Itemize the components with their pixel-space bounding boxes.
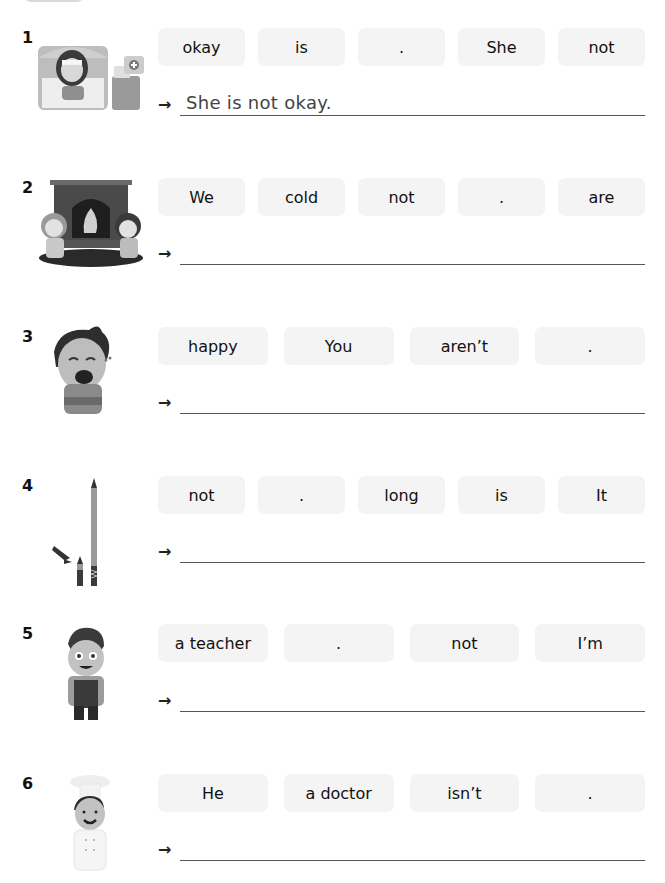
exercise-number: 6 [22,774,33,793]
exercise-number: 2 [22,178,33,197]
answer-row: → [158,533,645,563]
arrow-right-icon: → [158,840,171,859]
section-tab [25,0,83,2]
answer-line [180,711,645,712]
answer-row: → [158,235,645,265]
answer-row: → [158,384,645,414]
answer-line [180,264,645,265]
exercise-number: 3 [22,327,33,346]
word-token[interactable]: . [535,327,645,365]
word-tokens: okay is . She not [158,28,645,66]
word-token[interactable]: are [558,178,645,216]
crying-boy-illustration [44,322,134,426]
answer-row: → She is not okay. [158,86,645,116]
answer-line [180,115,645,116]
word-tokens: He a doctor isn’t . [158,774,645,812]
word-token[interactable]: happy [158,327,268,365]
word-token[interactable]: I’m [535,624,645,662]
word-token[interactable]: okay [158,28,245,66]
short-and-long-pencils-illustration [44,476,114,592]
arrow-right-icon: → [158,542,171,561]
word-token[interactable]: not [358,178,445,216]
exercise-number: 5 [22,624,33,643]
word-token[interactable]: isn’t [410,774,520,812]
word-token[interactable]: aren’t [410,327,520,365]
word-token[interactable]: . [258,476,345,514]
answer-line [180,413,645,414]
arrow-right-icon: → [158,244,171,263]
answer-line [180,562,645,563]
word-tokens: happy You aren’t . [158,327,645,365]
word-token[interactable]: not [558,28,645,66]
word-token[interactable]: You [284,327,394,365]
sick-girl-in-bed-illustration [34,38,149,117]
exercise-number: 1 [22,28,33,47]
arrow-right-icon: → [158,95,171,114]
word-token[interactable]: a doctor [284,774,394,812]
word-token[interactable]: . [458,178,545,216]
word-token[interactable]: is [258,28,345,66]
word-token[interactable]: not [158,476,245,514]
word-token[interactable]: is [458,476,545,514]
word-tokens: not . long is It [158,476,645,514]
word-tokens: We cold not . are [158,178,645,216]
exercise-number: 4 [22,476,33,495]
word-token[interactable]: He [158,774,268,812]
answer-line [180,860,645,861]
smiling-boy-student-illustration [58,624,118,728]
word-token[interactable]: . [284,624,394,662]
arrow-right-icon: → [158,691,171,710]
kids-by-fireplace-illustration [34,178,149,272]
word-token[interactable]: . [535,774,645,812]
word-token[interactable]: We [158,178,245,216]
word-token[interactable]: She [458,28,545,66]
word-token[interactable]: . [358,28,445,66]
answer-text[interactable]: She is not okay. [186,92,332,113]
answer-row: → [158,682,645,712]
word-token[interactable]: not [410,624,520,662]
answer-row: → [158,831,645,861]
word-token[interactable]: It [558,476,645,514]
word-token[interactable]: long [358,476,445,514]
word-token[interactable]: a teacher [158,624,268,662]
word-tokens: a teacher . not I’m [158,624,645,662]
chef-illustration [60,774,120,878]
arrow-right-icon: → [158,393,171,412]
word-token[interactable]: cold [258,178,345,216]
